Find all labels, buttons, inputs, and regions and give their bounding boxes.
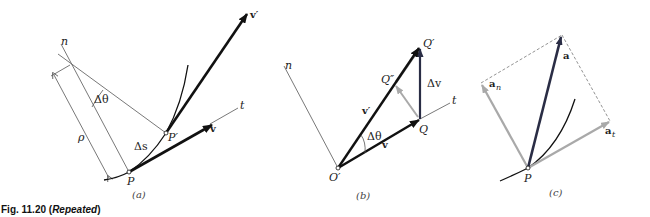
point-p-marker [127,170,131,174]
label-delta-v: Δv [427,77,442,90]
tangent-axis-t-b [420,103,450,119]
panel-b: n t Q′ Q″ Δv Q v′ Δθ v O′ (b) [284,37,457,201]
label-a-n-sub: n [496,83,501,92]
label-v-a: v [209,123,217,134]
label-n-a: n [61,35,68,48]
label-o-prime: O′ [329,171,341,184]
figure-caption: Fig. 11.20 (Repeated) [1,204,101,215]
caption-close: ) [97,204,100,215]
tangent-axis-t [210,108,238,124]
label-q: Q [419,123,428,136]
label-q-double-prime: Q″ [381,73,395,86]
dashed-edge-top-left [481,35,562,83]
diagram-canvas: n Δθ ρ Δs P P′ v v′ t (a) n t Q′ Q″ Δv [0,0,650,217]
vector-v-b [338,120,419,168]
label-n-b: n [285,59,292,72]
panel-c: a a n a t P (c) [481,35,616,198]
vector-a [528,37,561,168]
label-q-prime: Q′ [423,37,435,50]
label-a-n-base: a [489,78,496,89]
vector-v-prime-b [338,48,419,168]
caption-note: Repeated [52,204,97,215]
label-p-prime: P′ [167,131,178,144]
caption-number: Fig. 11.20 [1,204,46,215]
label-v-prime-a: v′ [249,9,259,20]
figure-11-20: n Δθ ρ Δs P P′ v v′ t (a) n t Q′ Q″ Δv [0,0,650,217]
vector-v-prime [166,14,247,133]
panel-a: n Δθ ρ Δs P P′ v v′ t (a) [51,9,259,200]
vector-normal-change [396,86,418,117]
label-rho: ρ [77,131,85,144]
label-p-c: P [523,172,532,185]
label-a-t-sub: t [612,130,616,139]
normal-line-n-b [284,66,338,168]
label-t-a: t [240,99,245,112]
rho-dimension-line [54,75,109,178]
label-delta-theta-a: Δθ [94,93,109,106]
vector-a-tangential [528,122,609,168]
label-t-b: t [452,94,457,107]
normal-line-p-prime [58,54,166,133]
vector-a-normal [482,85,528,168]
label-a: a [563,50,570,61]
rho-extension-line [51,65,70,76]
label-v-prime-b: v′ [361,105,371,116]
angle-arc-b [361,135,365,153]
origin-o-prime-marker [336,166,340,170]
panel-label-a: (a) [132,189,146,200]
label-delta-s: Δs [134,140,148,153]
point-p-marker-c [526,166,530,170]
dashed-edge-top-right [562,35,610,121]
label-v-b: v [381,139,389,150]
panel-label-c: (c) [549,187,563,198]
label-p-a: P [126,175,135,188]
label-a-t-base: a [605,125,612,136]
panel-label-b: (b) [356,190,370,201]
label-delta-theta-b: Δθ [367,130,382,143]
